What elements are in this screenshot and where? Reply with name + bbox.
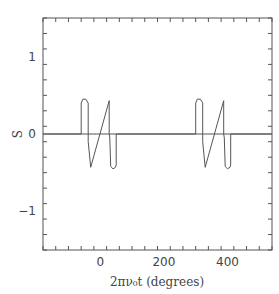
chart: 0200400−101 2πν₀t (degrees) S bbox=[0, 0, 279, 294]
x-axis-title: 2πν₀t (degrees) bbox=[110, 275, 204, 289]
waveform-series bbox=[43, 99, 272, 169]
x-tick-label: 0 bbox=[96, 255, 104, 269]
x-tick-label: 400 bbox=[216, 255, 239, 269]
y-axis-title: S bbox=[11, 130, 25, 138]
y-tick-label: 0 bbox=[28, 127, 36, 141]
y-tick-label: −1 bbox=[18, 204, 36, 218]
tick-labels: 0200400−101 bbox=[18, 50, 239, 269]
x-tick-label: 200 bbox=[152, 255, 175, 269]
y-tick-label: 1 bbox=[28, 50, 36, 64]
series-line bbox=[43, 99, 272, 169]
